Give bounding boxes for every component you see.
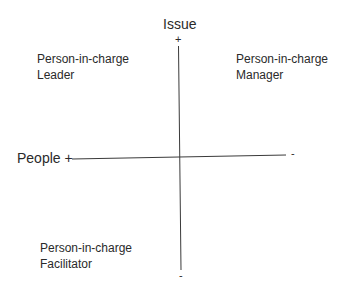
quadrant-bottom-left-line1: Person-in-charge	[40, 240, 132, 256]
vertical-axis-bottom-sign: -	[179, 270, 183, 281]
quadrant-bottom-left-line2: Facilitator	[40, 256, 132, 272]
vertical-axis-title: Issue	[163, 17, 196, 31]
quadrant-top-left-line2: Leader	[37, 67, 129, 83]
vertical-axis-line	[179, 46, 182, 270]
vertical-axis-top-sign: +	[175, 34, 181, 45]
horizontal-axis-line	[72, 155, 286, 159]
quadrant-top-left-line1: Person-in-charge	[37, 51, 129, 67]
quadrant-top-right-line2: Manager	[236, 67, 328, 83]
horizontal-axis-right-sign: -	[291, 148, 295, 159]
quadrant-top-right-line1: Person-in-charge	[236, 51, 328, 67]
quadrant-bottom-left-label: Person-in-charge Facilitator	[40, 240, 132, 272]
quadrant-top-left-label: Person-in-charge Leader	[37, 51, 129, 83]
quadrant-top-right-label: Person-in-charge Manager	[236, 51, 328, 83]
horizontal-axis-left-label: People +	[17, 151, 73, 165]
